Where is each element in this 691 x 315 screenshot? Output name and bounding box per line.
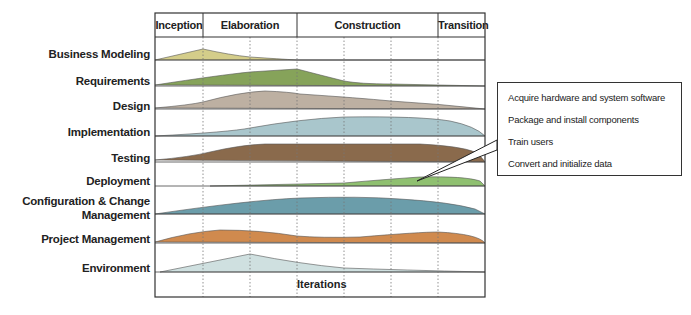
callout-item: Package and install components bbox=[508, 114, 681, 125]
hump-implementation bbox=[155, 117, 485, 136]
deployment-callout: Acquire hardware and system software Pac… bbox=[497, 82, 682, 176]
callout-item: Train users bbox=[508, 136, 681, 147]
hump-requirements bbox=[155, 69, 485, 86]
hump-design bbox=[155, 91, 485, 109]
hump-business-modeling bbox=[155, 49, 485, 60]
hump-testing bbox=[155, 144, 485, 162]
hump-project-management bbox=[155, 230, 485, 243]
callout-item: Acquire hardware and system software bbox=[508, 92, 681, 103]
hump-environment bbox=[160, 254, 485, 272]
iterations-axis-label: Iterations bbox=[297, 278, 347, 290]
hump-deployment bbox=[210, 177, 485, 186]
callout-item: Convert and initialize data bbox=[508, 158, 681, 169]
hump-config-change bbox=[155, 197, 485, 214]
